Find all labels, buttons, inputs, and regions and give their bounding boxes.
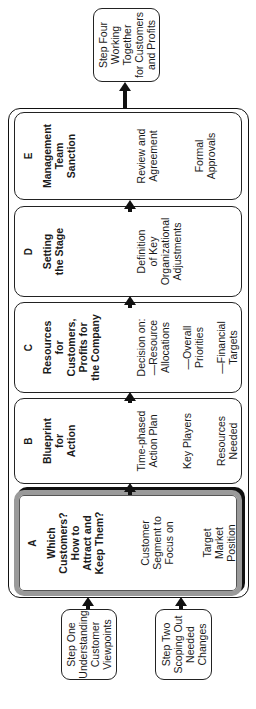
- phase-b-item: Resources Needed: [215, 416, 239, 466]
- phase-d-letter: D: [23, 248, 35, 255]
- phase-b-box: B Blueprint for Action Time-phased Actio…: [14, 398, 242, 484]
- phase-c-item: —Overall Priorities: [181, 326, 205, 370]
- phase-c-item: Decision on: —Resource Allocations: [135, 319, 171, 377]
- phase-c-letter: C: [23, 344, 35, 351]
- phase-c-box: C Resources for Customers, Profits for t…: [14, 302, 242, 393]
- phase-c-item: —Financial Targets: [215, 321, 239, 374]
- phase-a-item: Target Market Position: [201, 524, 237, 561]
- phase-b-title: Blueprint for Action: [41, 418, 105, 464]
- phase-d-title: Setting the Stage: [41, 228, 105, 275]
- phase-a-box: A Which Customers? How to Attract and Ke…: [14, 490, 242, 596]
- phase-c-title: Resources for Customers, Profits for the…: [41, 314, 105, 381]
- phase-e-item: Formal Approvals: [193, 133, 217, 180]
- phase-b-item: Key Players: [181, 413, 193, 469]
- phase-e-letter: E: [23, 153, 35, 160]
- phase-e-box: E Management Team Sanction Review and Ag…: [14, 112, 242, 200]
- phase-d-box: D Setting the Stage Definition of Key Or…: [14, 206, 242, 297]
- phase-d-item: Definition of Key Organizational Adjustm…: [135, 218, 183, 286]
- phase-b-item: Time-phased Action Plan: [135, 411, 159, 472]
- phase-a-item: Customer Segment to Focus on: [139, 516, 175, 570]
- step-one-box: Step One Understanding Customer Viewpoin…: [61, 609, 117, 680]
- phase-a-title: Which Customers? How to Attract and Keep…: [45, 512, 109, 575]
- phase-e-item: Review and Agreement: [135, 129, 159, 184]
- step-two-box: Step Two Scoping Out Needed Changes: [155, 609, 212, 680]
- phase-e-title: Management Team Sanction: [41, 124, 105, 188]
- phase-a-letter: A: [27, 539, 39, 546]
- process-diagram: A Which Customers? How to Attract and Ke…: [0, 0, 256, 709]
- step-four-box: Step Four Working Together for Customers…: [93, 8, 160, 82]
- phase-b-letter: B: [23, 437, 35, 444]
